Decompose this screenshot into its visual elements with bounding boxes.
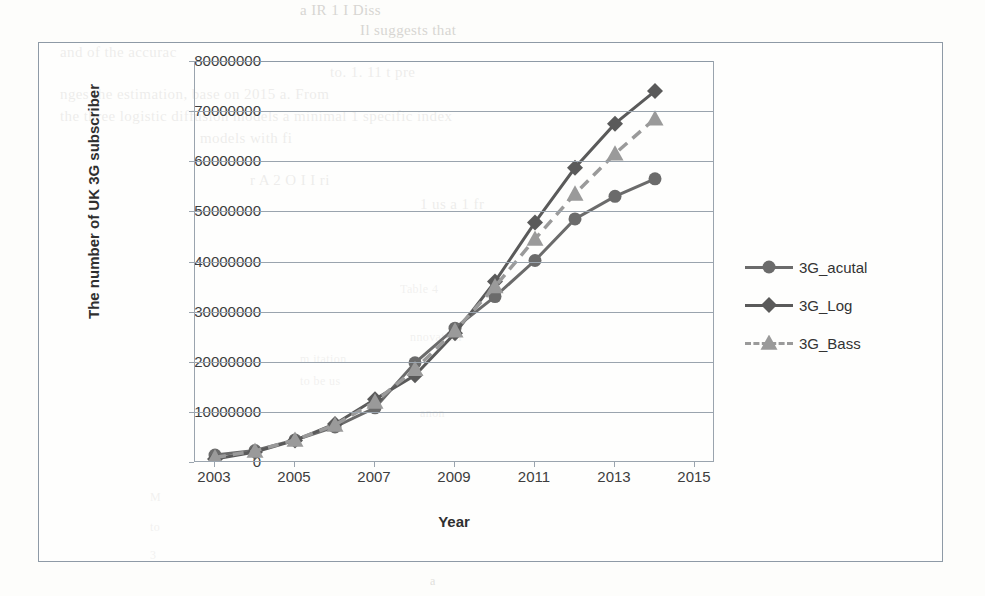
gridline <box>195 211 713 212</box>
data-point-marker <box>609 190 622 203</box>
plot-area <box>194 61 714 462</box>
legend-label: 3G_acutal <box>799 259 867 276</box>
gridline <box>195 111 713 112</box>
legend-label: 3G_Bass <box>799 335 861 352</box>
x-axis-tick-mark <box>454 462 455 467</box>
y-axis-tick-mark <box>189 462 194 463</box>
series-3G_acutal <box>209 172 662 461</box>
legend-item-3G_acutal[interactable]: 3G_acutal <box>745 248 935 286</box>
x-axis-tick-label: 2005 <box>277 468 310 485</box>
ghost-line: Il suggests that <box>360 22 456 39</box>
legend-item-3G_Bass[interactable]: 3G_Bass <box>745 324 935 362</box>
x-axis-tick-mark <box>614 462 615 467</box>
x-axis-tick-label: 2015 <box>677 468 710 485</box>
x-axis-tick-label: 2011 <box>518 468 550 485</box>
plot-wrapper: The number of UK 3G subscriber 010000000… <box>39 43 944 563</box>
legend-marker-circle-icon <box>745 259 793 275</box>
data-point-marker <box>569 212 582 225</box>
x-axis-tick-label: 2009 <box>437 468 470 485</box>
gridline <box>195 362 713 363</box>
data-point-marker <box>649 172 662 185</box>
x-axis-tick-mark <box>374 462 375 467</box>
x-axis-title: Year <box>194 513 714 530</box>
data-point-marker <box>647 110 664 125</box>
legend-item-3G_Log[interactable]: 3G_Log <box>745 286 935 324</box>
gridline <box>195 312 713 313</box>
gridline <box>195 161 713 162</box>
x-axis-tick-label: 2007 <box>357 468 390 485</box>
legend-label: 3G_Log <box>799 297 852 314</box>
x-axis-tick-label: 2003 <box>197 468 230 485</box>
ghost-line: a IR 1 I Diss <box>300 2 381 19</box>
gridline <box>195 262 713 263</box>
ghost-line: a <box>430 574 436 589</box>
series-line <box>215 91 655 459</box>
series-3G_Bass <box>207 110 664 462</box>
y-axis-title: The number of UK 3G subscriber <box>85 52 102 352</box>
gridline <box>195 412 713 413</box>
data-point-marker <box>761 335 778 350</box>
data-point-marker <box>763 261 776 274</box>
x-axis-tick-mark <box>534 462 535 467</box>
data-point-marker <box>529 254 542 267</box>
x-axis-tick-label: 2013 <box>597 468 630 485</box>
gridline <box>195 61 713 62</box>
series-3G_Log <box>207 83 663 462</box>
x-axis-tick-mark <box>214 462 215 467</box>
x-axis-tick-mark <box>694 462 695 467</box>
series-line <box>215 119 655 458</box>
chart-legend: 3G_acutal3G_Log3G_Bass <box>745 248 935 362</box>
chart-container: The number of UK 3G subscriber 010000000… <box>38 42 943 562</box>
data-point-marker <box>761 297 777 313</box>
legend-marker-triangle-icon <box>745 335 793 351</box>
x-axis-tick-mark <box>294 462 295 467</box>
legend-marker-diamond-icon <box>745 297 793 313</box>
series-line <box>215 179 655 455</box>
